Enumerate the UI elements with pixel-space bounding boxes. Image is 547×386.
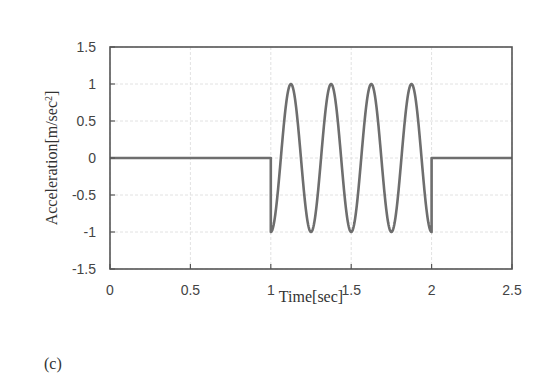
y-tick-label: 0.5 xyxy=(77,113,97,129)
y-tick-label: -1.5 xyxy=(72,261,96,277)
x-tick-label: 1 xyxy=(267,282,275,298)
y-tick-labels: 1.510.50-0.5-1-1.5 xyxy=(72,39,96,277)
y-axis-title: Acceleration[m/sec2] xyxy=(43,91,61,226)
chart: 00.511.522.5 1.510.50-0.5-1-1.5 Time[sec… xyxy=(0,0,547,386)
y-tick-label: 0 xyxy=(88,150,96,166)
panel-label: (c) xyxy=(44,355,62,373)
y-tick-label: -1 xyxy=(84,224,97,240)
x-tick-label: 0 xyxy=(106,282,114,298)
x-tick-label: 2.5 xyxy=(502,282,522,298)
y-tick-label: 1 xyxy=(88,76,96,92)
x-tick-label: 1.5 xyxy=(341,282,361,298)
x-axis-title: Time[sec] xyxy=(279,288,343,305)
y-tick-label: 1.5 xyxy=(77,39,97,55)
x-tick-label: 0.5 xyxy=(181,282,201,298)
x-tick-label: 2 xyxy=(428,282,436,298)
y-tick-label: -0.5 xyxy=(72,187,96,203)
